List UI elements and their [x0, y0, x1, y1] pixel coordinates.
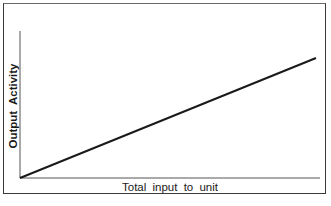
linear-activation-line — [20, 58, 316, 178]
y-axis-label: Output Activity — [7, 46, 23, 166]
x-axis-label: Total input to unit — [20, 181, 320, 193]
activation-plot — [0, 0, 331, 206]
